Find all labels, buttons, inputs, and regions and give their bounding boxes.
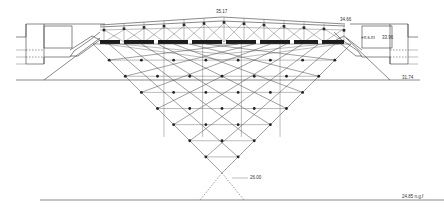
pyramid-node [253, 139, 256, 142]
floor-beam [192, 40, 222, 44]
floor-beam [100, 40, 120, 44]
pyramid-node [204, 123, 207, 126]
floor-beam [260, 40, 290, 44]
floor-beams [100, 40, 344, 44]
label-upper-floor: 33.96 [382, 35, 394, 40]
left-building [16, 24, 105, 80]
pyramid-node [140, 91, 143, 94]
floor-beam [158, 40, 188, 44]
pyramid-node [237, 91, 240, 94]
pyramid-node [204, 155, 207, 158]
section-drawing: 35.17 34.66 +n.s.m 33.96 31.74 26.00 24.… [0, 0, 444, 214]
floor-beam [124, 40, 154, 44]
pyramid-node [188, 75, 191, 78]
pyramid-node [237, 155, 240, 158]
pyramid-node [301, 91, 304, 94]
floor-beam [226, 40, 256, 44]
right-building [334, 24, 418, 80]
pyramid-projection [222, 173, 244, 200]
pyramid-node [204, 59, 207, 62]
roof-node [103, 29, 106, 32]
pyramid-node [188, 139, 191, 142]
pyramid-node [253, 75, 256, 78]
label-upper-floor-prefix: +n.s.m [361, 35, 375, 40]
pyramid-node [317, 75, 320, 78]
roof-node [123, 27, 126, 30]
pyramid-node [204, 91, 207, 94]
roof-structure [100, 17, 345, 60]
roof-node [183, 23, 186, 26]
pyramid-node [221, 107, 224, 110]
label-roof-apex: 35.17 [216, 9, 228, 14]
pyramid-node [253, 107, 256, 110]
pyramid-node [269, 59, 272, 62]
pyramid-node [221, 75, 224, 78]
pyramid-node [301, 59, 304, 62]
pyramid-projection [200, 173, 222, 200]
pyramid-node [156, 75, 159, 78]
pyramid-node [172, 123, 175, 126]
pyramid-node [221, 139, 224, 142]
inverted-pyramid [93, 44, 351, 173]
roof-node [143, 26, 146, 29]
floor-beam [294, 40, 318, 44]
pyramid-node [172, 59, 175, 62]
pyramid-node [333, 59, 336, 62]
roof-node [163, 25, 166, 28]
pyramid-node [188, 107, 191, 110]
label-lower-floor: 31.74 [402, 75, 414, 80]
pyramid-node [172, 91, 175, 94]
pyramid-node [237, 123, 240, 126]
pyramid-node [269, 91, 272, 94]
label-pyramid-tip: 26.00 [250, 175, 262, 180]
label-roof-edge: 34.66 [340, 17, 352, 22]
pyramid-node [124, 75, 127, 78]
pyramid-node [108, 59, 111, 62]
pyramid-node [140, 59, 143, 62]
pyramid-node [156, 107, 159, 110]
floor-beam [322, 40, 344, 44]
pyramid-node [269, 123, 272, 126]
pyramid-node [237, 59, 240, 62]
roof-node [203, 22, 206, 25]
pyramid-node [285, 75, 288, 78]
label-ground: 24.85 n.g.f [402, 194, 424, 199]
pyramid-node [285, 107, 288, 110]
